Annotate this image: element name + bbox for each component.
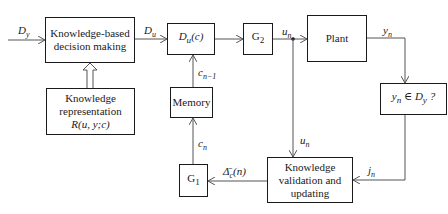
block-text: Knowledge-based xyxy=(50,27,129,40)
signal-un-down: un xyxy=(300,134,310,151)
block-text: G xyxy=(252,30,260,42)
block-text: Knowledge xyxy=(59,92,121,105)
block-text: (c) xyxy=(191,30,203,42)
signal-delta-c: Δ̄c(n) xyxy=(223,165,246,182)
block-text: validation and xyxy=(279,174,342,187)
block-text: ? xyxy=(427,90,435,102)
block-text: D xyxy=(179,30,187,42)
signal-yn: yn xyxy=(383,24,392,41)
block-text: representation xyxy=(59,105,121,118)
membership-check-block: yn ∈ Dy ? xyxy=(380,83,447,115)
block-text: R(u, y;c) xyxy=(59,118,121,131)
plant-block: Plant xyxy=(307,15,367,62)
block-subscript: 2 xyxy=(260,36,265,46)
block-text: Memory xyxy=(173,96,211,109)
memory-block: Memory xyxy=(170,87,213,118)
block-text: updating xyxy=(279,187,342,200)
signal-dy: Dy xyxy=(18,24,30,41)
block-text: decision making xyxy=(50,40,129,53)
signal-du: Du xyxy=(144,24,156,41)
block-text: G xyxy=(187,172,195,184)
block-subscript: 1 xyxy=(195,177,200,187)
g1-block: G1 xyxy=(179,164,208,197)
block-text: Plant xyxy=(326,32,349,45)
knowledge-based-decision-block: Knowledge-baseddecision making xyxy=(45,17,135,63)
knowledge-validation-block: Knowledgevalidation andupdating xyxy=(267,157,353,203)
g2-block: G2 xyxy=(243,23,273,55)
block-text: ∈ D xyxy=(401,90,423,102)
signal-cn: cn xyxy=(198,137,207,154)
knowledge-representation-block: KnowledgerepresentationR(u, y;c) xyxy=(46,88,135,135)
signal-cn-minus-1: cn−1 xyxy=(198,66,216,83)
block-text: Knowledge xyxy=(279,161,342,174)
du-c-block: Du(c) xyxy=(167,23,215,55)
signal-jn: jn xyxy=(368,164,375,181)
signal-un-top: un xyxy=(282,25,292,42)
